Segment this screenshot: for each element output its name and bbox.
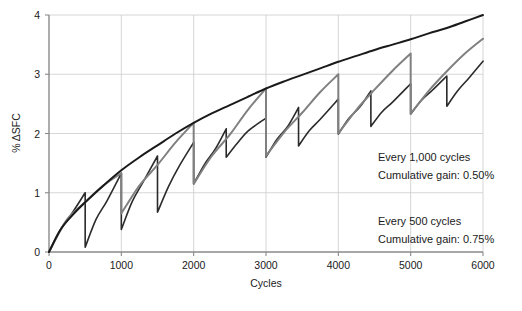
y-tick-label-1: 1	[34, 187, 40, 199]
x-tick-label-5000: 5000	[399, 259, 423, 271]
annotation-1000-cycles-line1: Every 1,000 cycles	[378, 151, 471, 163]
chart-svg: 0100020003000400050006000 01234 Cycles %…	[0, 0, 522, 311]
chart-container: 0100020003000400050006000 01234 Cycles %…	[0, 0, 522, 311]
x-tick-label-6000: 6000	[471, 259, 495, 271]
annotation-1000-cycles-line2: Cumulative gain: 0.50%	[378, 169, 494, 181]
x-tick-label-4000: 4000	[327, 259, 351, 271]
y-tick-label-2: 2	[34, 128, 40, 140]
y-tick-label-0: 0	[34, 246, 40, 258]
y-tick-label-3: 3	[34, 68, 40, 80]
annotation-500-cycles-line2: Cumulative gain: 0.75%	[378, 233, 494, 245]
y-axis-title: % ΔSFC	[10, 113, 22, 153]
x-axis-title: Cycles	[250, 277, 282, 289]
x-tick-label-3000: 3000	[254, 259, 278, 271]
y-tick-label-4: 4	[34, 9, 40, 21]
x-tick-label-0: 0	[46, 259, 52, 271]
x-tick-label-2000: 2000	[182, 259, 206, 271]
x-tick-label-1000: 1000	[110, 259, 134, 271]
x-axis-tick-labels: 0100020003000400050006000	[46, 259, 495, 271]
annotation-500-cycles-line1: Every 500 cycles	[378, 215, 462, 227]
y-axis-tick-labels: 01234	[34, 9, 40, 258]
